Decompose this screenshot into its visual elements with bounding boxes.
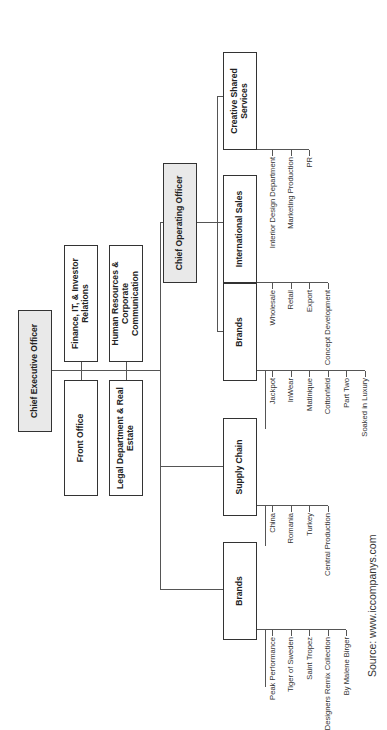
leaf-spine: [257, 149, 309, 150]
leaf-tick: [291, 283, 292, 289]
leaf-tick: [365, 371, 366, 377]
leaf-tick: [291, 150, 292, 156]
coo-box: Chief Operating Officer: [163, 163, 197, 283]
leaf-tick: [309, 150, 310, 156]
leaf-item: Marketing Production: [286, 157, 295, 229]
leaf-item: Retail: [286, 290, 295, 309]
hr-label: Human Resources & Corporate Communicatio…: [111, 250, 141, 357]
leaf-item: Part Two: [342, 378, 351, 408]
leaf-item: Soaked in Luxury: [360, 378, 369, 437]
front-office-label: Front Office: [76, 414, 86, 463]
leaf-item: Saint Tropez: [305, 637, 314, 680]
leaf-item: Romania: [286, 513, 295, 543]
leaf-spine: [257, 505, 328, 506]
leaf-tick: [328, 630, 329, 636]
leaf-spine: [265, 630, 266, 687]
leaf-tick: [291, 371, 292, 377]
leaf-spine: [257, 629, 346, 630]
leaf-tick: [309, 630, 310, 636]
ceo-connector: [52, 370, 160, 371]
source-caption: Source: www.iccompanys.com: [366, 535, 378, 677]
leaf-tick: [346, 630, 347, 636]
leaf-item: Central Production: [323, 513, 332, 576]
leaf-item: Cottonfield: [323, 378, 332, 414]
leaf-spine: [265, 371, 266, 429]
division-label: Brands: [235, 576, 245, 606]
leaf-item: Turkey: [305, 513, 314, 536]
leaf-tick: [309, 371, 310, 377]
division-brands-ceo: Brands: [223, 542, 257, 640]
coo-connector: [197, 222, 217, 223]
trunk-drop-supply: [160, 466, 223, 467]
leaf-item: InWear: [286, 378, 295, 402]
leaf-spine: [257, 282, 328, 283]
legal-box: Legal Department & Real Estate: [109, 380, 143, 496]
finance-label: Finance, IT, & Investor Relations: [71, 250, 91, 357]
ceo-box: Chief Executive Officer: [18, 310, 52, 432]
leaf-item: Designers Remix Collection: [323, 637, 332, 730]
coo-trunk: [217, 97, 218, 332]
leaf-tick: [328, 506, 329, 512]
leaf-tick: [291, 506, 292, 512]
leaf-tick: [309, 283, 310, 289]
leaf-item: Peak Performance: [268, 637, 277, 700]
division-label: Brands: [235, 317, 245, 347]
leaf-item: Tiger of Sweden: [286, 637, 295, 692]
leaf-spine: [265, 506, 266, 546]
leaf-item: Interior Design Department: [268, 157, 277, 248]
division-international-sales: International Sales: [223, 175, 257, 283]
front-office-box: Front Office: [64, 380, 98, 496]
division-label: International Sales: [235, 191, 245, 267]
leaf-item: PR: [305, 157, 314, 168]
leaf-tick: [346, 371, 347, 377]
ceo-label: Chief Executive Officer: [30, 324, 40, 418]
finance-box: Finance, IT, & Investor Relations: [64, 245, 98, 362]
leaf-tick: [272, 283, 273, 289]
staff-connector-1: [81, 362, 82, 380]
leaf-tick: [328, 283, 329, 289]
division-label: Creative Shared Services: [230, 57, 250, 145]
trunk-drop-brands-left: [160, 589, 223, 590]
leaf-tick: [272, 506, 273, 512]
hr-box: Human Resources & Corporate Communicatio…: [109, 245, 143, 362]
division-label: Supply Chain: [235, 440, 245, 495]
main-trunk: [160, 223, 161, 590]
leaf-item: Concept Development: [323, 290, 332, 365]
leaf-tick: [309, 506, 310, 512]
leaf-spine: [257, 370, 365, 371]
leaf-item: Jackpot: [268, 378, 277, 404]
coo-label: Chief Operating Officer: [175, 176, 185, 271]
division-brands-coo: Brands: [223, 283, 257, 381]
leaf-tick: [328, 371, 329, 377]
leaf-tick: [272, 371, 273, 377]
leaf-item: Matinique: [305, 378, 314, 411]
division-creative-shared-services: Creative Shared Services: [223, 52, 257, 150]
division-supply-chain: Supply Chain: [223, 418, 257, 516]
leaf-item: By Malene Birger: [342, 637, 351, 695]
leaf-item: Wholesale: [268, 290, 277, 325]
leaf-tick: [291, 630, 292, 636]
leaf-tick: [272, 630, 273, 636]
leaf-tick: [272, 150, 273, 156]
staff-connector-2: [126, 362, 127, 380]
leaf-item: Export: [305, 290, 314, 312]
leaf-item: China: [268, 513, 277, 533]
legal-label: Legal Department & Real Estate: [116, 385, 136, 491]
